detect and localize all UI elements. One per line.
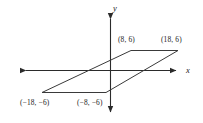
vertex-label-bottom-left: (−18, −6) <box>20 99 49 106</box>
y-axis-label: y <box>113 4 117 13</box>
x-axis-label: x <box>186 66 190 75</box>
vertex-label-top-right: (18, 6) <box>161 36 182 43</box>
vertex-label-top-left: (8, 6) <box>118 36 135 43</box>
vertex-label-bottom-right: (−8, −6) <box>77 99 103 106</box>
coordinate-plane-figure: x y (8, 6) (18, 6) (−18, −6) (−8, −6) <box>0 0 203 123</box>
